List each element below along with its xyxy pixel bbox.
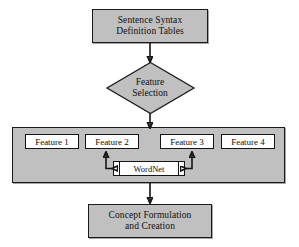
node-sentence-syntax-definition-tables[interactable]: Sentence Syntax Definition Tables (92, 9, 208, 43)
flowchart-canvas: Sentence Syntax Definition Tables Featur… (0, 0, 299, 247)
node-concept-formulation-and-creation[interactable]: Concept Formulation and Creation (88, 204, 212, 238)
node-feature-4[interactable]: Feature 4 (221, 134, 275, 149)
node-feature-2[interactable]: Feature 2 (85, 134, 139, 149)
node-wordnet[interactable]: WordNet (113, 161, 185, 176)
source-label-line2: Definition Tables (116, 26, 184, 38)
feature-4-label: Feature 4 (231, 137, 265, 147)
feature-2-label: Feature 2 (95, 137, 129, 147)
wordnet-right-rule (178, 162, 179, 175)
node-feature-selection[interactable]: Feature Selection (105, 61, 195, 114)
feature-1-label: Feature 1 (35, 137, 69, 147)
output-label-line1: Concept Formulation (109, 210, 192, 222)
feature-3-label: Feature 3 (170, 137, 204, 147)
node-feature-3[interactable]: Feature 3 (160, 134, 214, 149)
source-label-line1: Sentence Syntax (118, 15, 183, 27)
output-label-line2: and Creation (125, 221, 175, 233)
diamond-shape (107, 63, 194, 114)
wordnet-label: WordNet (134, 164, 165, 174)
wordnet-left-rule (119, 162, 120, 175)
node-feature-1[interactable]: Feature 1 (25, 134, 79, 149)
